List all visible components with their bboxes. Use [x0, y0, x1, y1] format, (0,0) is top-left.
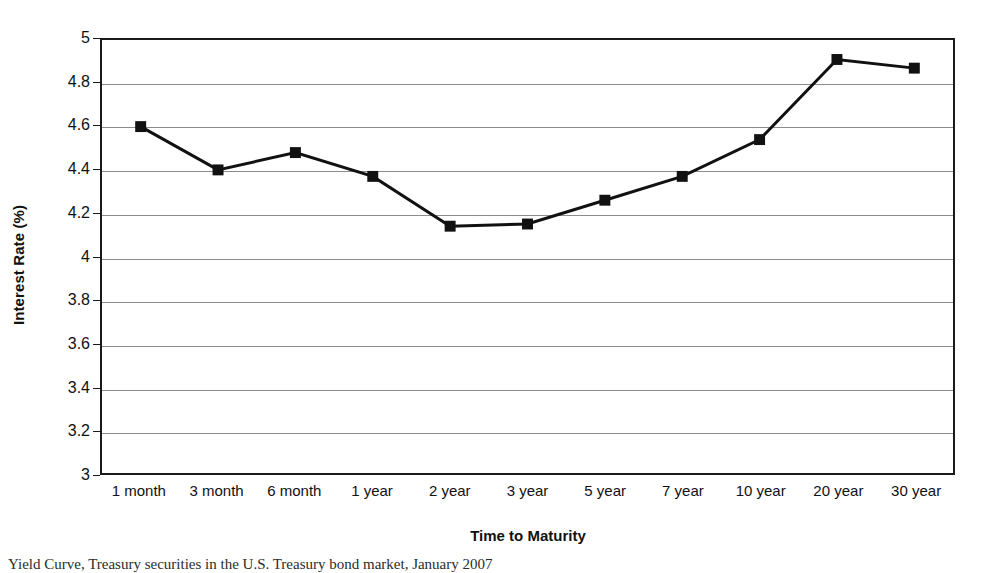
y-axis-tick-label: 5	[28, 30, 90, 46]
y-axis-tick-label: 4.6	[28, 117, 90, 133]
y-axis-title: Interest Rate (%)	[10, 175, 34, 355]
series-line-chart	[102, 40, 953, 473]
series-polyline	[141, 59, 915, 226]
y-axis-tick-label: 4.2	[28, 205, 90, 221]
x-axis-tick-label: 7 year	[644, 482, 722, 499]
y-axis-tick-label: 3.6	[28, 336, 90, 352]
data-point-marker	[677, 171, 688, 182]
data-point-marker	[599, 195, 610, 206]
x-axis-tick-label: 20 year	[800, 482, 878, 499]
x-axis-tick-label: 2 year	[411, 482, 489, 499]
data-point-marker	[909, 63, 920, 74]
y-axis-tick-mark	[93, 475, 100, 476]
y-axis-tick-mark	[93, 344, 100, 345]
y-axis-tick-mark	[93, 300, 100, 301]
y-axis-tick-mark	[93, 431, 100, 432]
x-axis-title: Time to Maturity	[100, 527, 956, 544]
y-axis-tick-label: 3.4	[28, 380, 90, 396]
y-axis-tick-mark	[93, 257, 100, 258]
y-axis-tick-label: 3.8	[28, 292, 90, 308]
data-point-marker	[445, 221, 456, 232]
y-axis-tick-mark	[93, 388, 100, 389]
data-point-marker	[522, 219, 533, 230]
plot-area	[100, 38, 955, 475]
data-point-marker	[831, 54, 842, 65]
y-axis-tick-mark	[93, 213, 100, 214]
data-point-marker	[135, 121, 146, 132]
y-axis-tick-label: 4.4	[28, 161, 90, 177]
y-axis-tick-label: 4.8	[28, 74, 90, 90]
x-axis-tick-label: 30 year	[877, 482, 955, 499]
x-axis-tick-label: 1 year	[333, 482, 411, 499]
figure-caption: Yield Curve, Treasury securities in the …	[8, 556, 708, 573]
data-point-marker	[290, 147, 301, 158]
y-axis-tick-mark	[93, 125, 100, 126]
series-markers	[135, 54, 920, 232]
x-axis-tick-label: 5 year	[566, 482, 644, 499]
x-axis-tick-label: 1 month	[100, 482, 178, 499]
y-axis-tick-mark	[93, 38, 100, 39]
x-axis-tick-label: 3 year	[489, 482, 567, 499]
x-axis-tick-label: 10 year	[722, 482, 800, 499]
y-axis-tick-label: 3	[28, 467, 90, 483]
data-point-marker	[754, 134, 765, 145]
x-axis-tick-label: 3 month	[178, 482, 256, 499]
y-axis-tick-label: 3.2	[28, 423, 90, 439]
data-point-marker	[367, 171, 378, 182]
x-axis-tick-label: 6 month	[255, 482, 333, 499]
y-axis-tick-mark	[93, 82, 100, 83]
data-point-marker	[213, 164, 224, 175]
y-axis-tick-mark	[93, 169, 100, 170]
y-axis-tick-label: 4	[28, 249, 90, 265]
